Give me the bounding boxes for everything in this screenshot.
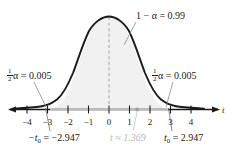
confidence-level-label: 1 − α = 0.99 [136,11,185,21]
fraction-numerator: 1 [152,68,158,75]
left-tail-leader-line [34,82,46,107]
tick-label: −1 [84,118,94,127]
tick-label: −4 [22,118,32,127]
x-axis-variable-text: t [222,105,225,115]
left-tail-area-text: α = 0.005 [13,70,51,81]
tick-label: 2 [148,118,153,127]
fraction-denominator: 2 [7,75,13,83]
right-tail-leader-line [166,82,173,107]
test-statistic-label: t ≈ 1.369 [110,133,146,143]
right-tail-area-label: 1 2 α = 0.005 [152,68,196,83]
right-tail-area-text: α = 0.005 [158,70,196,81]
x-axis-right-arrow [212,107,220,113]
tick-label: 0 [107,118,112,127]
left-critical-symbol: −t [28,132,38,143]
one-half-fraction: 1 2 [7,68,13,83]
t-distribution-figure: 1 − α = 0.99 1 2 α = 0.005 1 2 α = 0.005… [0,0,232,153]
test-statistic-text: t ≈ 1.369 [110,132,146,143]
left-critical-value-text: = −2.947 [41,132,80,143]
left-critical-value-label: −t0 = −2.947 [28,133,80,145]
right-critical-value-label: t0 = 2.947 [164,133,203,145]
tick-label: −3 [43,118,53,127]
tick-label: 1 [127,118,132,127]
test-statistic-marker [135,108,139,112]
test-statistic-leader-line [133,112,137,131]
tick-label: 3 [168,118,173,127]
left-tail-area-label: 1 2 α = 0.005 [7,68,51,83]
fraction-denominator: 2 [152,75,158,83]
right-critical-value-text: = 2.947 [170,132,203,143]
fraction-numerator: 1 [7,68,13,75]
confidence-level-text: 1 − α = 0.99 [136,10,185,21]
tick-label: 4 [189,118,194,127]
one-half-fraction: 1 2 [152,68,158,83]
x-axis-variable-label: t [222,106,225,115]
tick-label: −2 [63,118,73,127]
